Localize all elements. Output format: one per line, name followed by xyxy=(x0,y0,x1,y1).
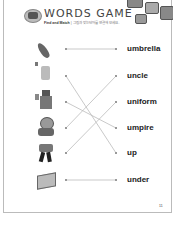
word-uniform[interactable]: uniform xyxy=(127,97,157,106)
word-umbrella[interactable]: umbrella xyxy=(127,44,160,53)
word-uncle[interactable]: uncle xyxy=(127,71,148,80)
page-number: 11 xyxy=(159,204,163,208)
word-umpire[interactable]: umpire xyxy=(127,123,154,132)
word-under[interactable]: under xyxy=(127,175,149,184)
word-up[interactable]: up xyxy=(127,148,137,157)
